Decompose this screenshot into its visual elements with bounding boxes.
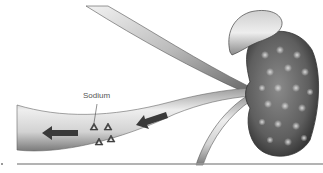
sodium-label: Sodium xyxy=(83,91,110,100)
blood-vessel xyxy=(17,88,252,151)
kidney-sodium-diagram: Sodium xyxy=(0,0,323,173)
ureter xyxy=(196,96,252,165)
upper-vessel xyxy=(86,6,248,92)
